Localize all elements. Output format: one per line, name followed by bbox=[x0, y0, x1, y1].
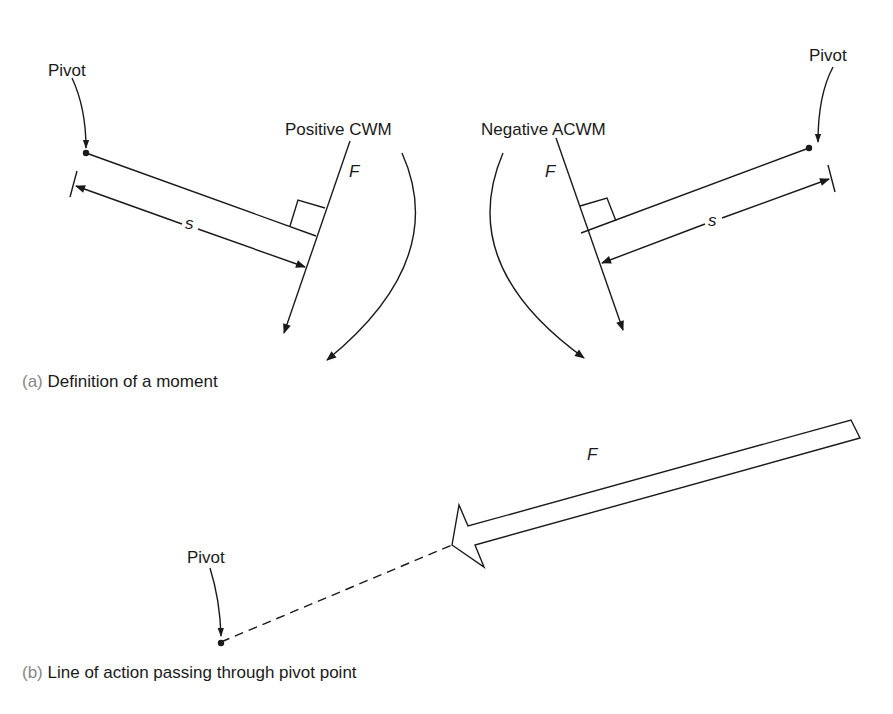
pivot-b-point bbox=[218, 640, 224, 646]
right-distance-label: s bbox=[708, 212, 717, 229]
right-force-label: F bbox=[545, 163, 555, 180]
caption-a: (a) Definition of a moment bbox=[22, 373, 218, 390]
left-dimension-line-b bbox=[198, 229, 305, 267]
left-dimension-tick bbox=[70, 171, 77, 197]
force-b-label: F bbox=[587, 446, 597, 463]
right-force-arrow bbox=[556, 138, 623, 330]
left-right-angle-marker bbox=[290, 200, 325, 226]
right-right-angle-marker bbox=[580, 198, 616, 221]
right-pivot-pointer-arrow bbox=[818, 67, 833, 142]
caption-a-text: Definition of a moment bbox=[48, 372, 218, 391]
left-lever-arm bbox=[86, 153, 316, 236]
left-pivot-label: Pivot bbox=[48, 62, 86, 79]
right-moment-diagram bbox=[490, 67, 835, 358]
caption-b-text: Line of action passing through pivot poi… bbox=[48, 663, 357, 682]
caption-a-tag: (a) bbox=[22, 372, 43, 391]
line-of-action-diagram bbox=[210, 420, 860, 642]
large-force-arrow-f bbox=[452, 420, 860, 567]
caption-b: (b) Line of action passing through pivot… bbox=[22, 664, 357, 681]
right-dimension-tick bbox=[828, 165, 835, 192]
right-dimension-line-b bbox=[602, 224, 705, 263]
left-dimension-line-a bbox=[76, 186, 182, 224]
moment-diagram bbox=[0, 0, 893, 714]
left-pivot-pointer-arrow bbox=[72, 78, 86, 148]
pivot-b-pointer-arrow bbox=[210, 568, 221, 636]
left-force-arrow bbox=[284, 141, 350, 333]
right-anticlockwise-arc bbox=[490, 153, 584, 358]
left-distance-label: s bbox=[185, 215, 194, 232]
pivot-b-label: Pivot bbox=[187, 549, 225, 566]
dashed-line-of-action bbox=[221, 545, 452, 642]
left-pivot-point bbox=[83, 150, 89, 156]
left-moment-label: Positive CWM bbox=[285, 121, 392, 138]
right-dimension-line-a bbox=[722, 179, 829, 218]
caption-b-tag: (b) bbox=[22, 663, 43, 682]
right-pivot-point bbox=[806, 145, 812, 151]
right-moment-label: Negative ACWM bbox=[481, 121, 606, 138]
left-clockwise-arc bbox=[327, 153, 415, 360]
right-pivot-label: Pivot bbox=[809, 47, 847, 64]
left-force-label: F bbox=[349, 163, 359, 180]
